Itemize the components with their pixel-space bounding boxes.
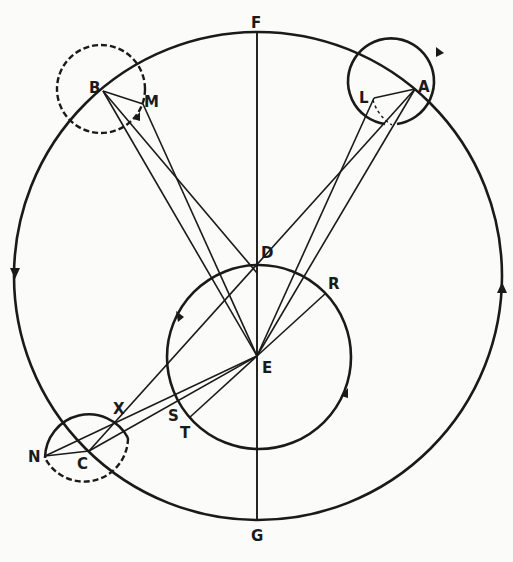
- label-n: N: [28, 448, 41, 466]
- label-l: L: [359, 89, 369, 107]
- label-c: C: [77, 455, 88, 473]
- inner-circle-arrow-icon: [176, 311, 184, 322]
- outer-circle-arrow-down-icon: [10, 268, 20, 279]
- label-t: T: [180, 424, 191, 442]
- line-e-t: [189, 356, 257, 418]
- epicycle-a-arrow-icon: [436, 47, 444, 57]
- line-m-e: [143, 104, 257, 356]
- label-x: X: [113, 400, 125, 418]
- line-a-e: [257, 89, 415, 356]
- outer-circle: [14, 32, 502, 520]
- label-g: G: [251, 527, 263, 545]
- label-d: D: [261, 244, 273, 262]
- line-l-e: [257, 98, 374, 356]
- inner-circle: [167, 265, 351, 449]
- label-f: F: [251, 14, 261, 32]
- geometry-diagram: F G A B M L D R E X S T N C: [0, 0, 513, 562]
- label-r: R: [328, 275, 340, 293]
- line-e-r: [257, 293, 326, 356]
- label-b: B: [89, 79, 100, 97]
- label-s: S: [168, 407, 179, 425]
- line-a-d-c: [89, 89, 415, 451]
- label-m: M: [144, 93, 159, 111]
- line-e-n: [45, 356, 257, 456]
- label-e: E: [262, 359, 272, 377]
- label-a: A: [418, 78, 430, 96]
- outer-circle-arrow-up-icon: [497, 282, 507, 293]
- line-b-d: [103, 91, 257, 273]
